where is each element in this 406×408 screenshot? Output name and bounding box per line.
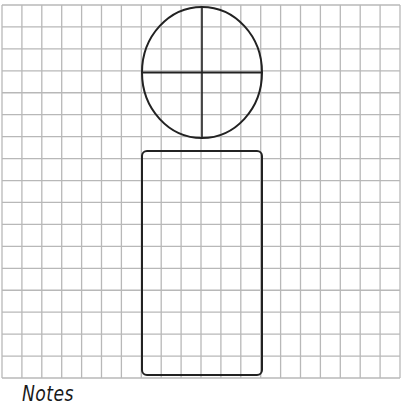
shapes — [142, 7, 262, 375]
sketch-canvas — [0, 0, 406, 408]
notes-label: Notes — [22, 384, 74, 405]
body-rectangle — [142, 151, 262, 375]
grid — [2, 5, 400, 378]
